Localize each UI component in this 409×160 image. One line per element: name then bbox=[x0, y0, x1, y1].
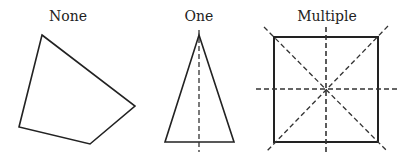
irregular-quadrilateral bbox=[19, 35, 135, 144]
symmetry-diagram bbox=[0, 0, 409, 160]
